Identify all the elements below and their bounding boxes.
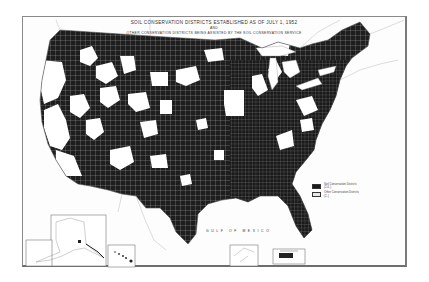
legend-swatch-light — [312, 192, 321, 198]
legend-item-other-districts: Other Conservation Districts (2..) — [312, 191, 372, 197]
inset-hawaii — [108, 245, 135, 267]
inset-alaska — [26, 215, 106, 266]
map-legend: Soil Conservation Districts (2,4..) Othe… — [312, 183, 372, 200]
inset-virgin-islands — [230, 245, 258, 266]
legend-item-soil-districts: Soil Conservation Districts (2,4..) — [312, 183, 372, 189]
legend-swatch-dark — [312, 184, 321, 190]
legend-label: Other Conservation Districts — [324, 191, 359, 194]
inset-puerto-rico — [273, 249, 305, 264]
us-districts-map — [0, 0, 429, 282]
legend-count: (2..) — [324, 195, 359, 198]
legend-count: (2,4..) — [324, 186, 357, 189]
gulf-label: GULF OF MEXICO — [206, 229, 271, 233]
